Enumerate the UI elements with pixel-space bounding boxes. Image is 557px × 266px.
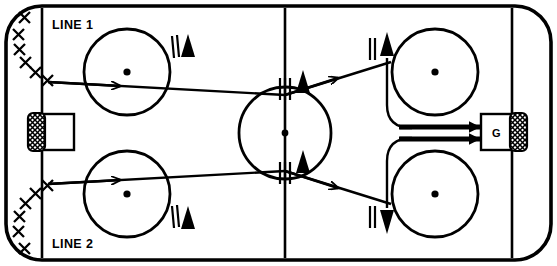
left-goal-net [28, 113, 45, 151]
right-goal: G [481, 113, 527, 151]
top-left-faceoff-dot [123, 68, 130, 75]
bottom-right-faceoff-dot [431, 190, 438, 197]
line-2-label: LINE 2 [52, 237, 93, 251]
goalie-label: G [492, 127, 501, 139]
bottom-left-faceoff-dot [123, 190, 130, 197]
line-1-label: LINE 1 [52, 18, 93, 32]
left-goal [28, 113, 74, 151]
top-right-faceoff-dot [431, 68, 438, 75]
hockey-rink-diagram: G [0, 0, 557, 266]
center-faceoff-dot [282, 130, 289, 137]
right-goal-net [510, 113, 527, 151]
